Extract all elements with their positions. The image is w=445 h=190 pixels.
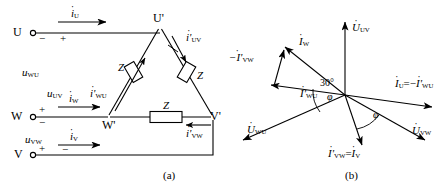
phasor-label-i-w: ̇IW [299, 36, 309, 48]
phasor-label-u-uv: ̇UUV [352, 22, 370, 34]
polarity-w-minus: − [39, 117, 45, 128]
angle-label-phi-left: φ [327, 92, 333, 102]
current-label-i-v: ̇iV [70, 131, 78, 143]
impedance-label-wu: Z [118, 62, 124, 73]
phasor-label-u-vw: ̇UVW [412, 125, 431, 137]
terminal-label-w: W [11, 110, 22, 122]
caption-b: (b) [345, 170, 358, 181]
node-label-v-prime: V' [210, 110, 221, 122]
phasor-label-i-wu-prime: ̇I'WU [300, 88, 317, 100]
current-label-i-w: ̇iW [69, 93, 79, 105]
voltage-label-u-vw: uVW [25, 134, 42, 146]
terminal-label-v: V [14, 148, 23, 160]
polarity-u-plus: + [60, 33, 66, 44]
current-label-i-u: ̇iU [71, 8, 79, 20]
current-label-i-wu-prime: ̇i'WU [90, 88, 107, 100]
phasor-i-u [345, 95, 432, 107]
phasor-label-i-vw-prime: ̇I'VW=̇IV [328, 148, 360, 160]
terminal-label-u: U [13, 26, 22, 38]
impedance-label-uv: Z [197, 70, 203, 81]
figure-canvas [0, 0, 445, 190]
impedance-box-uv [177, 61, 196, 82]
voltage-label-u-wu: uWU [22, 67, 39, 79]
phasor-label-neg-i-vw-prime: ̇−I'VW [229, 52, 254, 64]
phasor-neg-i-vw-prime [274, 50, 284, 86]
caption-a: (a) [163, 170, 175, 181]
current-label-i-vw-prime: ̇i'VW [186, 128, 203, 140]
angle-label-thirty: 30° [320, 78, 334, 88]
node-label-u-prime: U' [153, 12, 164, 24]
angle-label-phi-right: φ [373, 110, 379, 120]
phasor-label-u-wu: ̇UWU [247, 124, 266, 136]
node-label-w-prime: W' [102, 119, 116, 131]
polarity-v-minus: − [62, 144, 68, 155]
terminal-dot-w [30, 114, 35, 119]
terminal-dot-u [30, 30, 35, 35]
polarity-w-plus: + [39, 104, 45, 115]
current-label-i-uv-prime: ̇i'UV [186, 32, 201, 44]
tick-uv [168, 45, 178, 52]
phasor-label-i-u: ̇IU=−̇I'WU [395, 78, 433, 90]
voltage-label-u-uv: uUV [47, 88, 62, 100]
polarity-u-minus: − [39, 33, 45, 44]
figure-root: U W V U' W' V' − + + − + − uWU uUV uVW ̇… [0, 0, 445, 190]
terminal-dot-v [30, 152, 35, 157]
impedance-label-vw: Z [163, 100, 169, 111]
impedance-box-vw [150, 112, 182, 123]
